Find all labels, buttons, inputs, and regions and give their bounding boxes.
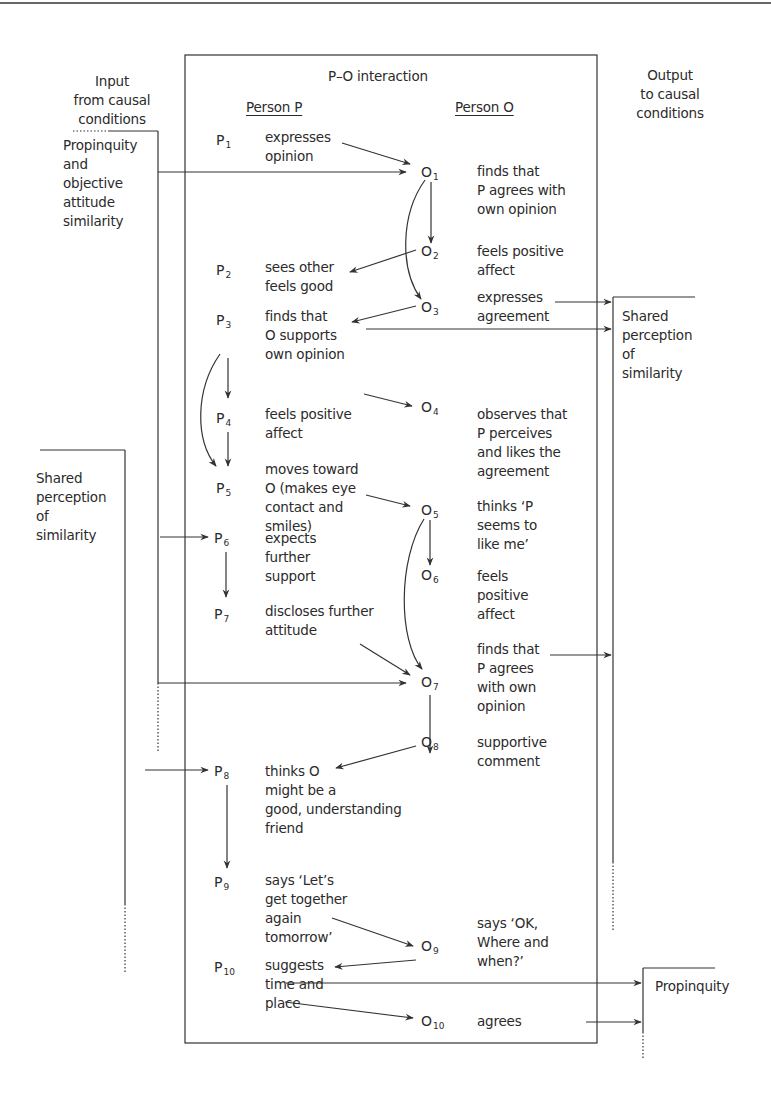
- o1-text: finds that P agrees with own opinion: [477, 162, 566, 219]
- output-shared-perception-label: Shared perception of similarity: [622, 307, 692, 383]
- o8-text: supportive comment: [477, 733, 547, 771]
- node-o7: O7: [421, 673, 439, 696]
- p7-text: discloses further attitude: [265, 602, 374, 640]
- input-header: Input from causal conditions: [62, 72, 162, 129]
- person-o-header: Person O: [455, 98, 514, 117]
- p9-text: says ‘Let’s get together again tomorrow’: [265, 871, 347, 947]
- p5-text: moves toward O (makes eye contact and sm…: [265, 460, 358, 536]
- node-p2: P2: [216, 261, 231, 284]
- p4-text: feels positive affect: [265, 405, 352, 443]
- node-p4: P4: [216, 409, 231, 432]
- node-p5: P5: [216, 479, 231, 502]
- p3-text: finds that O supports own opinion: [265, 307, 345, 364]
- o6-text: feels positive affect: [477, 567, 528, 624]
- node-o10: O10: [421, 1012, 444, 1035]
- node-p9: P9: [214, 873, 229, 896]
- p1-text: expresses opinion: [265, 128, 331, 166]
- input-shared-perception-label: Shared perception of similarity: [36, 469, 106, 545]
- o4-text: observes that P perceives and likes the …: [477, 405, 567, 481]
- node-o8: O8: [421, 733, 439, 756]
- node-p8: P8: [214, 762, 229, 785]
- node-p1: P1: [216, 131, 231, 154]
- node-o4: O4: [421, 398, 439, 421]
- node-o2: O2: [421, 242, 439, 265]
- node-p10: P10: [214, 958, 235, 981]
- node-o1: O1: [421, 163, 439, 186]
- o10-text: agrees: [477, 1012, 522, 1031]
- node-o9: O9: [421, 937, 439, 960]
- input-propinquity-label: Propinquity and objective attitude simil…: [63, 136, 137, 231]
- node-p7: P7: [214, 605, 229, 628]
- p6-text: expects further support: [265, 529, 316, 586]
- node-o3: O3: [421, 298, 439, 321]
- p2-text: sees other feels good: [265, 258, 334, 296]
- output-header: Output to causal conditions: [620, 66, 720, 123]
- o3-text: expresses agreement: [477, 288, 549, 326]
- p8-text: thinks O might be a good, understanding …: [265, 762, 402, 838]
- o5-text: thinks ‘P seems to like me’: [477, 497, 537, 554]
- node-p6: P6: [214, 529, 229, 552]
- person-p-header: Person P: [246, 98, 302, 117]
- o2-text: feels positive affect: [477, 242, 564, 280]
- diagram-title: P–O interaction: [328, 67, 428, 86]
- node-o6: O6: [421, 566, 439, 589]
- node-p3: P3: [216, 311, 231, 334]
- node-o5: O5: [421, 501, 439, 524]
- o7-text: finds that P agrees with own opinion: [477, 640, 539, 716]
- o9-text: says ‘OK, Where and when?’: [477, 914, 549, 971]
- output-propinquity-label: Propinquity: [655, 977, 729, 996]
- p10-text: suggests time and place: [265, 956, 324, 1013]
